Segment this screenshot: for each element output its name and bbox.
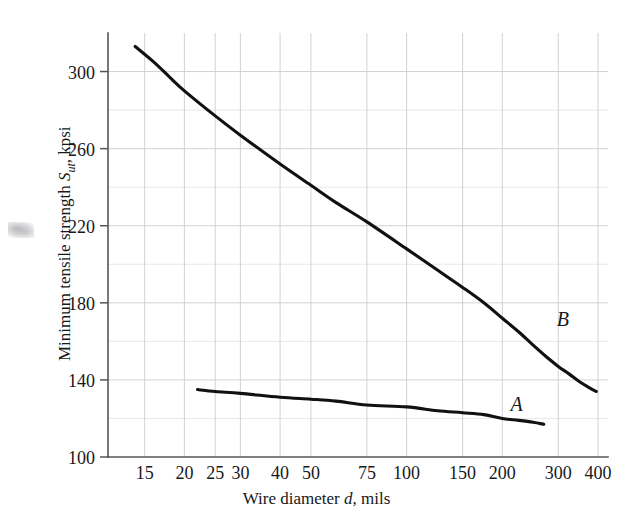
curve-a	[198, 390, 544, 425]
x-axis-title-suffix: , mils	[352, 489, 390, 508]
curves-group	[135, 46, 596, 424]
x-tick-label: 50	[302, 463, 320, 483]
tensile-strength-chart: 100140180220260300 152025304050751001502…	[0, 0, 633, 526]
x-tick-label: 25	[206, 463, 224, 483]
figure-container: 100140180220260300 152025304050751001502…	[0, 0, 633, 526]
x-tick-label: 200	[489, 463, 516, 483]
grid-minor-group	[108, 110, 608, 418]
plot-frame	[108, 33, 608, 457]
curve-b	[135, 46, 596, 391]
x-tick-labels-group: 15202530405075100150200300400	[136, 463, 612, 483]
x-tick-label: 100	[393, 463, 420, 483]
x-tick-label: 30	[231, 463, 249, 483]
y-axis-title-suffix: , kpsi	[55, 126, 74, 163]
x-tick-label: 40	[271, 463, 289, 483]
x-tick-label: 75	[358, 463, 376, 483]
grid-major-group	[108, 33, 608, 457]
x-axis-title: Wire diameter d, mils	[0, 489, 633, 509]
y-axis-title-prefix: Minimum tensile strength	[55, 181, 74, 361]
x-tick-label: 300	[545, 463, 572, 483]
y-axis-title-subscript: ut	[64, 163, 78, 172]
x-tick-label: 15	[136, 463, 154, 483]
curve-label-b: B	[557, 308, 569, 330]
tick-marks-group	[100, 72, 108, 457]
x-axis-title-prefix: Wire diameter	[243, 489, 344, 508]
x-tick-label: 150	[449, 463, 476, 483]
curve-label-a: A	[509, 393, 524, 415]
y-axis-title-variable: S	[55, 173, 74, 182]
curve-labels-group: BA	[509, 308, 569, 415]
x-tick-label: 400	[585, 463, 612, 483]
x-tick-label: 20	[175, 463, 193, 483]
y-axis-title: Minimum tensile strength Sut, kpsi	[55, 9, 78, 479]
